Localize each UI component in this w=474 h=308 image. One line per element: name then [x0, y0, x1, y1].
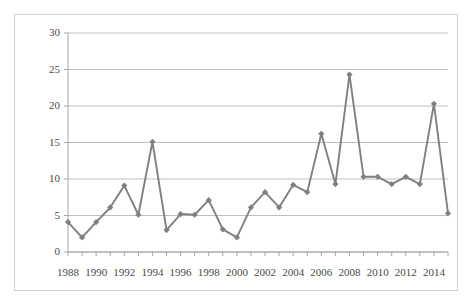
data-point-marker: [332, 181, 338, 187]
data-point-marker: [135, 212, 141, 218]
x-tick-label: 2010: [363, 266, 393, 278]
gridlines: [68, 33, 448, 252]
line-chart-plot: [0, 0, 474, 308]
x-tick-label: 2004: [278, 266, 308, 278]
y-axis-ticks: [64, 33, 68, 252]
data-point-marker: [346, 72, 352, 78]
x-tick-label: 2000: [222, 266, 252, 278]
x-axis-ticks: [68, 252, 448, 256]
x-tick-label: 2002: [250, 266, 280, 278]
x-tick-label: 1988: [53, 266, 83, 278]
x-tick-label: 1998: [194, 266, 224, 278]
x-tick-label: 2014: [419, 266, 449, 278]
x-tick-label: 1996: [166, 266, 196, 278]
data-point-marker: [149, 139, 155, 145]
x-tick-label: 1992: [109, 266, 139, 278]
y-tick-label: 10: [32, 173, 60, 184]
y-tick-label: 25: [32, 64, 60, 75]
chart-figure: 051015202530 198819901992199419961998200…: [0, 0, 474, 308]
x-tick-label: 2012: [391, 266, 421, 278]
data-point-marker: [318, 131, 324, 137]
y-tick-label: 30: [32, 27, 60, 38]
series-line: [68, 75, 448, 238]
x-axis-labels: 1988199019921994199619982000200220042006…: [40, 266, 440, 282]
y-tick-label: 15: [32, 137, 60, 148]
y-tick-label: 0: [32, 246, 60, 257]
y-tick-label: 20: [32, 100, 60, 111]
x-tick-label: 2008: [334, 266, 364, 278]
x-tick-label: 1994: [137, 266, 167, 278]
x-tick-label: 2006: [306, 266, 336, 278]
y-tick-label: 5: [32, 210, 60, 221]
x-tick-label: 1990: [81, 266, 111, 278]
